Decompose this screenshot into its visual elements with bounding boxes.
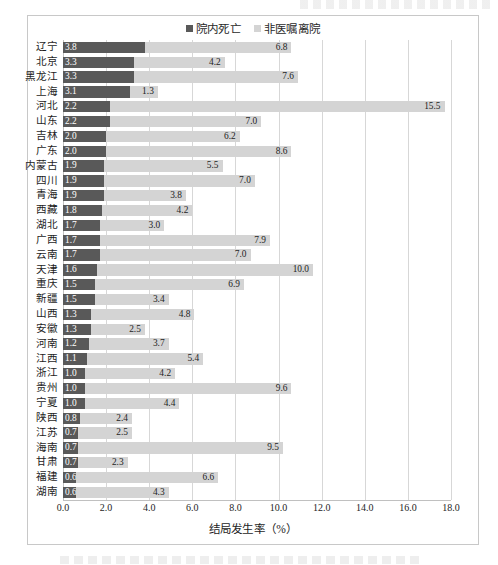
bar-segment-discharge-against-advice: 3.0 [100, 220, 165, 231]
category-label-广西: 广西 [36, 233, 58, 248]
bar-value-in-hospital-death: 1.5 [65, 294, 77, 305]
bar-segment-discharge-against-advice: 1.3 [130, 86, 158, 97]
x-tick-10.0: 10.0 [270, 502, 288, 513]
bar-segment-in-hospital-death: 1.7 [63, 235, 100, 246]
bar-value-in-hospital-death: 1.9 [65, 175, 77, 186]
plot-area: 辽宁3.86.8北京3.34.2黑龙江3.37.6上海3.11.3河北2.215… [63, 40, 451, 500]
stacked-bar: 1.97.0 [63, 175, 255, 186]
bar-segment-discharge-against-advice: 2.5 [78, 427, 132, 438]
chart-frame: 院内死亡 非医嘱离院 辽宁3.86.8北京3.34.2黑龙江3.37.6上海3.… [27, 15, 479, 545]
bar-value-discharge-against-advice: 4.4 [164, 398, 179, 409]
bar-row: 江西1.15.4 [63, 352, 451, 367]
x-tick-6.0: 6.0 [186, 502, 199, 513]
bar-value-discharge-against-advice: 6.8 [276, 42, 291, 53]
bar-row: 山西1.34.8 [63, 307, 451, 322]
category-label-海南: 海南 [36, 441, 58, 456]
category-label-陕西: 陕西 [36, 411, 58, 426]
bar-row: 黑龙江3.37.6 [63, 70, 451, 85]
bar-value-in-hospital-death: 1.0 [65, 368, 77, 379]
bar-segment-in-hospital-death: 0.6 [63, 487, 76, 498]
bar-segment-discharge-against-advice: 8.6 [106, 146, 291, 157]
bar-row: 湖南0.64.3 [63, 485, 451, 500]
bar-value-in-hospital-death: 2.2 [65, 101, 77, 112]
bar-value-discharge-against-advice: 9.5 [267, 442, 282, 453]
bar-value-discharge-against-advice: 2.5 [129, 324, 144, 335]
category-label-广东: 广东 [36, 144, 58, 159]
bar-segment-in-hospital-death: 3.8 [63, 42, 145, 53]
bar-value-discharge-against-advice: 4.8 [179, 309, 194, 320]
category-label-江苏: 江苏 [36, 426, 58, 441]
bar-row: 江苏0.72.5 [63, 426, 451, 441]
stacked-bar: 1.610.0 [63, 264, 313, 275]
category-label-辽宁: 辽宁 [36, 40, 58, 55]
bar-value-discharge-against-advice: 6.9 [228, 279, 243, 290]
bar-segment-discharge-against-advice: 15.5 [110, 101, 444, 112]
bar-segment-in-hospital-death: 2.0 [63, 146, 106, 157]
bar-row: 青海1.93.8 [63, 188, 451, 203]
bar-value-discharge-against-advice: 6.2 [224, 131, 239, 142]
bar-row: 贵州1.09.6 [63, 381, 451, 396]
bar-segment-in-hospital-death: 1.3 [63, 309, 91, 320]
stacked-bar: 2.06.2 [63, 131, 240, 142]
bar-row: 河南1.23.7 [63, 337, 451, 352]
stacked-bar: 3.86.8 [63, 42, 291, 53]
x-tick-16.0: 16.0 [399, 502, 417, 513]
stacked-bar: 0.82.4 [63, 413, 132, 424]
bar-value-in-hospital-death: 0.7 [65, 457, 77, 468]
bar-segment-in-hospital-death: 0.7 [63, 427, 78, 438]
x-tick-0.0: 0.0 [57, 502, 70, 513]
category-label-福建: 福建 [36, 470, 58, 485]
bar-row: 湖北1.73.0 [63, 218, 451, 233]
bar-value-in-hospital-death: 0.7 [65, 427, 77, 438]
bar-segment-discharge-against-advice: 4.8 [91, 309, 194, 320]
bar-row: 宁夏1.04.4 [63, 396, 451, 411]
bar-segment-discharge-against-advice: 10.0 [97, 264, 313, 275]
bar-value-in-hospital-death: 1.3 [65, 324, 77, 335]
bar-value-in-hospital-death: 3.1 [65, 86, 77, 97]
bar-value-discharge-against-advice: 2.4 [116, 413, 131, 424]
bar-segment-discharge-against-advice: 4.2 [102, 205, 193, 216]
stacked-bar: 0.79.5 [63, 442, 283, 453]
x-axis-tick-labels: 0.02.04.06.08.010.012.014.016.018.0 [63, 502, 451, 518]
bar-value-discharge-against-advice: 7.0 [239, 175, 254, 186]
bar-segment-discharge-against-advice: 4.4 [85, 398, 180, 409]
bar-value-in-hospital-death: 0.8 [65, 413, 77, 424]
bar-row: 上海3.11.3 [63, 85, 451, 100]
bar-segment-in-hospital-death: 2.2 [63, 101, 110, 112]
stacked-bar: 1.04.4 [63, 398, 179, 409]
bar-segment-in-hospital-death: 0.8 [63, 413, 80, 424]
x-tick-14.0: 14.0 [356, 502, 374, 513]
bar-segment-in-hospital-death: 1.9 [63, 175, 104, 186]
bar-value-in-hospital-death: 1.5 [65, 279, 77, 290]
bar-value-discharge-against-advice: 7.9 [254, 235, 269, 246]
category-label-西藏: 西藏 [36, 203, 58, 218]
bar-value-discharge-against-advice: 1.3 [142, 86, 157, 97]
stacked-bar: 3.34.2 [63, 57, 225, 68]
bar-segment-in-hospital-death: 3.3 [63, 71, 134, 82]
bar-value-in-hospital-death: 2.0 [65, 146, 77, 157]
bar-segment-discharge-against-advice: 2.3 [78, 457, 128, 468]
category-label-上海: 上海 [36, 85, 58, 100]
bar-value-in-hospital-death: 1.7 [65, 235, 77, 246]
stacked-bar: 0.64.3 [63, 487, 169, 498]
bar-segment-in-hospital-death: 1.0 [63, 398, 85, 409]
stacked-bar: 1.77.9 [63, 235, 270, 246]
legend-item-in-hospital-death: 院内死亡 [186, 20, 241, 36]
legend-label-discharge-against-advice: 非医嘱离院 [264, 20, 320, 36]
x-tick-4.0: 4.0 [143, 502, 156, 513]
bar-segment-discharge-against-advice: 2.5 [91, 324, 145, 335]
bar-segment-in-hospital-death: 0.6 [63, 472, 76, 483]
bar-segment-discharge-against-advice: 9.6 [85, 383, 292, 394]
stacked-bar: 1.93.8 [63, 190, 186, 201]
bar-row: 云南1.77.0 [63, 248, 451, 263]
bar-segment-in-hospital-death: 2.2 [63, 116, 110, 127]
bar-segment-in-hospital-death: 2.0 [63, 131, 106, 142]
bar-value-discharge-against-advice: 3.7 [153, 338, 168, 349]
bar-value-discharge-against-advice: 2.5 [116, 427, 131, 438]
bar-row: 海南0.79.5 [63, 441, 451, 456]
bar-value-in-hospital-death: 1.0 [65, 398, 77, 409]
stacked-bar: 0.66.6 [63, 472, 218, 483]
category-label-山西: 山西 [36, 307, 58, 322]
bar-value-in-hospital-death: 1.7 [65, 220, 77, 231]
bar-value-in-hospital-death: 0.7 [65, 442, 77, 453]
